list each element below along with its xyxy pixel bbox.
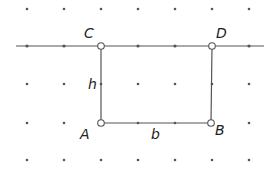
grid-dot: [100, 8, 103, 11]
label-b: B: [215, 122, 225, 138]
grid-dot: [211, 8, 214, 11]
grid-dot: [26, 159, 29, 162]
grid-dot: [137, 83, 140, 86]
label-c: C: [84, 25, 94, 41]
label-d: D: [216, 25, 227, 41]
label-side-b: b: [151, 126, 160, 142]
vertex-c: [98, 43, 105, 50]
label-side-h: h: [88, 76, 97, 92]
label-a: A: [79, 126, 90, 142]
grid-dot: [63, 159, 66, 162]
grid-dot: [63, 8, 66, 11]
grid-dot: [248, 8, 251, 11]
grid-dot: [100, 159, 103, 162]
grid-dot: [248, 159, 251, 162]
grid-dot: [26, 83, 29, 86]
vertex-a: [98, 120, 105, 127]
grid-dot: [137, 8, 140, 11]
grid-dot: [26, 122, 29, 125]
grid-dot: [137, 159, 140, 162]
grid-dot: [248, 83, 251, 86]
rectangle-diagram: C D A B h b: [0, 0, 267, 181]
vertex-b: [208, 120, 215, 127]
grid-dot: [211, 159, 214, 162]
rectangle-edges: [101, 46, 212, 123]
grid-dot: [26, 8, 29, 11]
grid-dot: [174, 8, 177, 11]
grid-dot: [248, 122, 251, 125]
grid-dot: [174, 159, 177, 162]
grid-dot: [63, 83, 66, 86]
grid-dot: [63, 122, 66, 125]
vertices: [98, 43, 216, 127]
vertex-d: [209, 43, 216, 50]
edge-bd: [211, 46, 212, 123]
grid-dot: [174, 83, 177, 86]
